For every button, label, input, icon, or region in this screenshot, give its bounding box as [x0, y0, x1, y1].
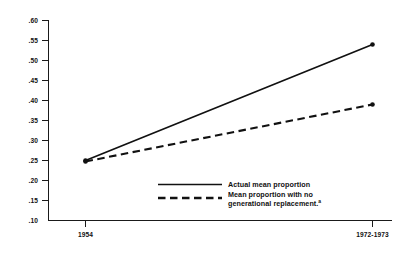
y-axis-tick-labels: .60 .55 .50 .45 .40 .35 .30 .25 .20 .15 … — [29, 17, 39, 224]
data-point-marker — [370, 102, 375, 107]
x-axis-tick-labels: 1954 1972-1973 — [78, 231, 389, 238]
legend-label-noreplacement-line2-text: generational replacement. — [228, 199, 318, 208]
figure-container: .60 .55 .50 .45 .40 .35 .30 .25 .20 .15 … — [0, 0, 408, 255]
y-tick-label: .20 — [29, 177, 39, 184]
y-tick-label: .55 — [29, 37, 39, 44]
line-chart: .60 .55 .50 .45 .40 .35 .30 .25 .20 .15 … — [0, 0, 408, 255]
series-line-dashed — [86, 105, 373, 162]
y-tick-label: .40 — [29, 97, 39, 104]
legend-label-actual: Actual mean proportion — [228, 180, 310, 189]
y-tick-label: .10 — [29, 217, 39, 224]
chart-legend: Actual mean proportion Mean proportion w… — [158, 180, 321, 208]
x-tick-label-1972-1973: 1972-1973 — [356, 231, 389, 238]
data-point-marker — [370, 42, 375, 47]
y-axis-ticks — [42, 21, 49, 201]
y-tick-label: .50 — [29, 57, 39, 64]
series-no-generational-replacement — [83, 102, 375, 164]
legend-superscript-a: a — [318, 198, 321, 204]
data-point-marker — [83, 159, 88, 164]
y-tick-label: .30 — [29, 137, 39, 144]
y-tick-label: .45 — [29, 77, 39, 84]
legend-label-noreplacement-line2: generational replacement.a — [228, 198, 321, 208]
y-tick-label: .35 — [29, 117, 39, 124]
series-line-solid — [86, 45, 373, 161]
x-axis-ticks — [86, 221, 373, 228]
y-tick-label: .25 — [29, 157, 39, 164]
y-tick-label: .15 — [29, 197, 39, 204]
series-actual-mean-proportion — [83, 42, 375, 163]
y-tick-label: .60 — [29, 17, 39, 24]
x-tick-label-1954: 1954 — [78, 231, 93, 238]
